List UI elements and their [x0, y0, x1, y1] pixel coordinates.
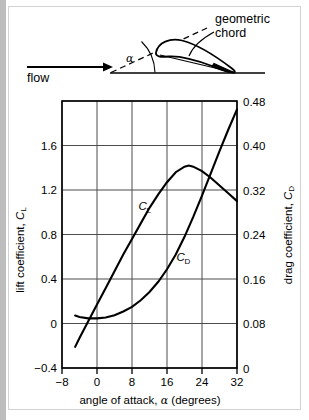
x-axis-title-suffix: (degrees) [168, 394, 221, 406]
alpha-angle-arc [142, 42, 156, 73]
y-axis-title-right-text: drag coefficient, [282, 200, 294, 284]
geometric-chord-label-line2: chord [215, 26, 246, 40]
alpha-symbol-label: α [126, 52, 134, 65]
left-tick-label-1p6: 1.6 [41, 140, 57, 152]
x-axis-title: angle of attack, α (degrees) [79, 394, 220, 407]
x-tick-label-8: 8 [129, 376, 135, 388]
plot-area-group: C L C D [62, 101, 237, 368]
left-tick-label-neg0p4: −0.4 [34, 362, 57, 374]
chart-svg: geometric chord flow α [0, 0, 309, 420]
right-tick-label-0p24: 0.24 [243, 229, 266, 241]
y-axis-title-left-subscript: L [19, 207, 28, 212]
left-tick-label-0p4: 0.4 [41, 273, 58, 285]
right-axis-tick-labels: 0.48 0.40 0.32 0.24 0.16 0.08 0 [243, 96, 266, 375]
svg-text:drag coefficient, CD: drag coefficient, CD [282, 186, 296, 285]
x-axis-title-prefix: angle of attack, [79, 394, 160, 406]
curve-label-lift-subscript: L [147, 206, 152, 215]
x-tick-label-neg8: −8 [55, 376, 68, 388]
y-axis-title-left: lift coefficient, CL [14, 207, 28, 293]
figure-container: geometric chord flow α [0, 0, 309, 420]
right-tick-label-0p16: 0.16 [243, 274, 265, 286]
left-tick-label-1p2: 1.2 [41, 184, 57, 196]
svg-text:lift coefficient, CL: lift coefficient, CL [14, 207, 28, 293]
svg-text:angle of attack, α (degrees): angle of attack, α (degrees) [79, 394, 220, 407]
right-tick-label-0: 0 [243, 363, 249, 375]
y-axis-title-right-subscript: D [287, 186, 296, 192]
x-tick-label-24: 24 [196, 376, 209, 388]
left-tick-label-0: 0 [51, 318, 57, 330]
geometric-chord-label-line1: geometric [215, 12, 270, 26]
curve-label-drag-subscript: D [185, 257, 191, 266]
x-tick-label-32: 32 [231, 376, 244, 388]
left-tick-label-0p8: 0.8 [41, 229, 57, 241]
right-tick-label-0p08: 0.08 [243, 318, 265, 330]
x-axis-tick-labels: −8 0 8 16 24 32 [55, 376, 243, 388]
left-axis-tick-labels: 1.6 1.2 0.8 0.4 0 −0.4 [34, 140, 57, 375]
right-tick-label-0p32: 0.32 [243, 185, 265, 197]
y-axis-title-right: drag coefficient, CD [282, 186, 296, 285]
x-tick-label-16: 16 [161, 376, 174, 388]
y-axis-title-left-text: lift coefficient, [14, 220, 26, 293]
x-axis-ticks [62, 368, 237, 374]
airfoil-diagram-group: geometric chord flow α [27, 12, 270, 85]
x-tick-label-0: 0 [94, 376, 100, 388]
flow-label: flow [27, 71, 50, 85]
right-tick-label-0p40: 0.40 [243, 140, 265, 152]
right-tick-label-0p48: 0.48 [243, 96, 265, 108]
